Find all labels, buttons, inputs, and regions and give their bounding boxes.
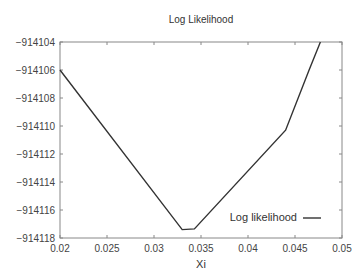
x-tick-label: 0.035 [188,243,213,254]
x-tick-label: 0.03 [144,243,164,254]
x-tick-label: 0.04 [238,243,258,254]
y-tick-label: −914110 [17,121,56,132]
x-tick-label: 0.05 [332,243,352,254]
y-tick-label: −914112 [17,149,56,160]
y-tick-label: −914116 [17,205,56,216]
y-tick-label: −914104 [16,37,56,48]
x-tick-label: 0.02 [50,243,70,254]
y-tick-label: −914114 [17,177,56,188]
x-tick-label: 0.045 [282,243,307,254]
y-tick-label: −914106 [16,65,56,76]
x-axis-label: Xi [196,258,206,270]
x-tick-label: 0.025 [94,243,119,254]
y-tick-label: −914118 [17,233,56,244]
log-likelihood-chart: Log Likelihood −914104−914106−914108−914… [0,0,364,279]
legend-label: Log likelihood [230,211,297,223]
plot-area [60,42,342,238]
legend: Log likelihood [230,211,321,223]
log-likelihood-line [60,42,320,230]
y-tick-label: −914108 [16,93,56,104]
chart-title: Log Likelihood [169,14,234,25]
